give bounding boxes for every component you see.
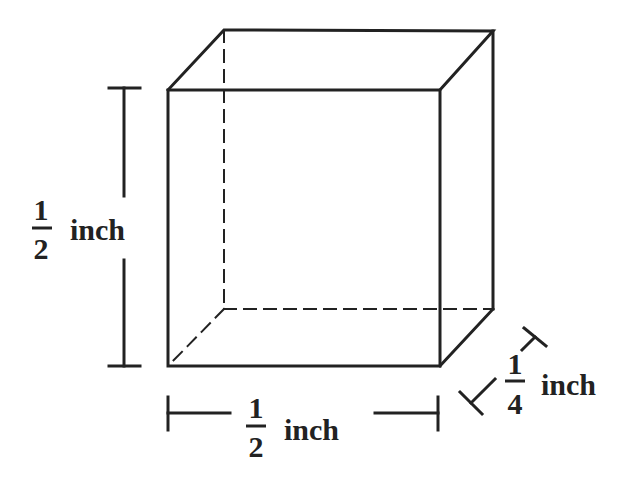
svg-text:inch: inch bbox=[284, 413, 339, 446]
hidden-edges bbox=[168, 30, 493, 366]
svg-text:1: 1 bbox=[249, 391, 264, 424]
top-face bbox=[168, 30, 493, 90]
svg-text:1: 1 bbox=[508, 347, 523, 380]
width-label: 1 2 inch bbox=[246, 391, 339, 463]
svg-text:4: 4 bbox=[508, 387, 523, 420]
depth-label: 1 4 inch bbox=[505, 347, 596, 420]
svg-text:inch: inch bbox=[541, 368, 596, 401]
depth-dimension-line bbox=[460, 328, 546, 414]
svg-text:2: 2 bbox=[249, 430, 264, 463]
svg-text:inch: inch bbox=[70, 213, 125, 246]
prism-diagram: 1 2 inch 1 2 inch 1 4 inch bbox=[0, 0, 630, 489]
height-label: 1 2 inch bbox=[32, 193, 125, 265]
svg-text:1: 1 bbox=[34, 193, 49, 226]
svg-text:2: 2 bbox=[34, 232, 49, 265]
